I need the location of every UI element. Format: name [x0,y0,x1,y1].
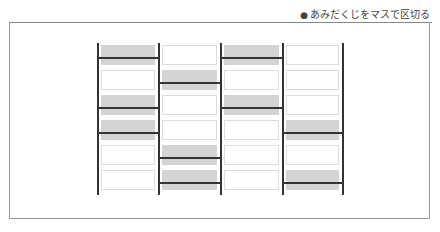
ladder-cell [162,95,217,115]
ladder-cell [286,170,339,190]
ladder-rung [220,107,284,109]
ladder-rung [220,57,284,59]
ladder-cell [286,120,339,140]
ladder-cell [224,95,279,115]
ladder-cell [101,120,155,140]
ladder-cell [162,170,217,190]
ladder-rung [97,132,160,134]
ladder-cell [224,70,279,90]
ladder-cell [101,45,155,65]
bullet-icon: ● [300,10,308,20]
ladder-cell [286,95,339,115]
ladder-rail [97,43,99,195]
ladder-rung [282,132,344,134]
ladder-cell [162,145,217,165]
caption-text: あみだくじをマスで区切る [310,9,430,20]
ladder-rung [158,182,222,184]
ladder-rail [282,43,284,195]
ladder-rung [97,57,160,59]
ladder-cell [101,70,155,90]
ladder-cell [162,120,217,140]
figure-caption: ●あみだくじをマスで区切る [300,6,430,21]
ladder-rung [158,82,222,84]
ladder-cell [162,70,217,90]
ladder-cell [224,145,279,165]
ladder-cell [224,120,279,140]
ladder-cell [101,170,155,190]
ladder-cell [101,145,155,165]
ladder-cell [286,145,339,165]
ladder-rail [220,43,222,195]
ladder-rail [342,43,344,195]
ladder-cell [224,45,279,65]
ladder-rung [282,182,344,184]
ladder-rung [158,157,222,159]
ladder-rail [158,43,160,195]
ladder-cell [224,170,279,190]
ladder-cell [286,70,339,90]
ladder-cell [162,45,217,65]
ladder-cell [101,95,155,115]
ladder-rung [97,107,160,109]
ladder-cell [286,45,339,65]
